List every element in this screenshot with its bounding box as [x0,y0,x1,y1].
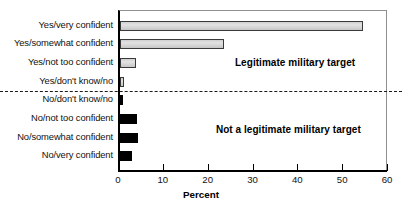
x-tick-label-60: 60 [382,174,393,185]
x-tick-label-20: 20 [202,174,213,185]
x-tick-0 [118,164,119,171]
category-label-no-not-too-confident: No/not too confident [31,113,113,123]
annotation-not-legitimate-military-target: Not a legitimate military target [216,124,361,135]
category-label-yes-somewhat-confident: Yes/somewhat confident [14,38,113,48]
bar-yes-not-too-confident [120,58,136,68]
bar-yes-very-confident [120,21,363,31]
x-tick-label-0: 0 [115,174,120,185]
chart-figure: Yes/very confident Yes/somewhat confiden… [0,0,402,204]
x-tick-10 [163,164,164,171]
category-label-no-somewhat-confident: No/somewhat confident [17,132,113,142]
annotation-legitimate-military-target: Legitimate military target [235,57,355,68]
x-tick-label-50: 50 [337,174,348,185]
x-axis-title: Percent [0,189,402,200]
bar-no-not-too-confident [120,114,137,124]
x-tick-label-10: 10 [157,174,168,185]
category-label-yes-very-confident: Yes/very confident [39,20,113,30]
category-label-yes-dont-know-no: Yes/don't know/no [39,76,113,86]
category-label-no-dont-know-no: No/don't know/no [42,94,113,104]
category-label-yes-not-too-confident: Yes/not too confident [28,57,113,67]
x-tick-label-40: 40 [292,174,303,185]
bar-no-very-confident [120,151,132,161]
x-tick-40 [297,164,298,171]
bar-yes-dont-know-no [120,77,124,87]
group-divider-line [0,91,402,92]
bar-no-somewhat-confident [120,133,138,143]
x-tick-30 [253,164,254,171]
category-label-no-very-confident: No/very confident [42,150,113,160]
x-tick-label-30: 30 [247,174,258,185]
bar-no-dont-know-no [120,95,123,105]
category-axis-labels: Yes/very confident Yes/somewhat confiden… [0,0,116,204]
x-tick-50 [342,164,343,171]
bar-yes-somewhat-confident [120,39,224,49]
x-tick-20 [208,164,209,171]
x-tick-60 [387,164,388,171]
